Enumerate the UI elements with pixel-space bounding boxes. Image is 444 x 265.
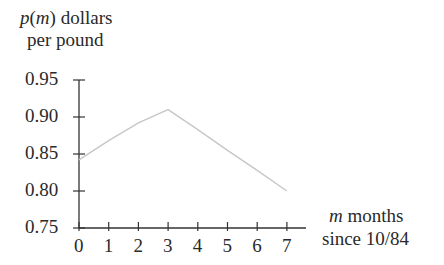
y-tick-label: 0.85 (25, 143, 58, 163)
y-tick-label: 0.80 (25, 180, 58, 200)
x-tick-label: 2 (133, 236, 143, 256)
x-axis-title: m months (329, 206, 403, 226)
y-axis-unit-line2: per pound (27, 29, 104, 50)
y-axis-unit: dollars (56, 7, 112, 28)
x-tick-label: 5 (223, 236, 233, 256)
price-line (79, 110, 287, 191)
x-ticks (79, 222, 287, 231)
y-axis-title: p(m) dollars (20, 8, 112, 28)
x-tick-label: 1 (104, 236, 114, 256)
y-tick-label: 0.75 (25, 217, 58, 237)
y-axis-title-line2: per pound (27, 30, 104, 50)
x-axis-unit: months (343, 205, 404, 226)
x-tick-label: 4 (193, 236, 203, 256)
x-axis-unit-line2: since 10/84 (322, 228, 409, 249)
y-axis-arg: m (36, 7, 50, 28)
x-tick-label: 3 (163, 236, 173, 256)
x-tick-label: 0 (74, 236, 84, 256)
y-axis-var: p (20, 7, 30, 28)
x-tick-label: 7 (282, 236, 292, 256)
x-tick-label: 6 (252, 236, 262, 256)
x-axis-title-line2: since 10/84 (322, 229, 409, 249)
x-axis-var: m (329, 205, 343, 226)
y-tick-label: 0.95 (25, 69, 58, 89)
y-tick-label: 0.90 (25, 106, 58, 126)
